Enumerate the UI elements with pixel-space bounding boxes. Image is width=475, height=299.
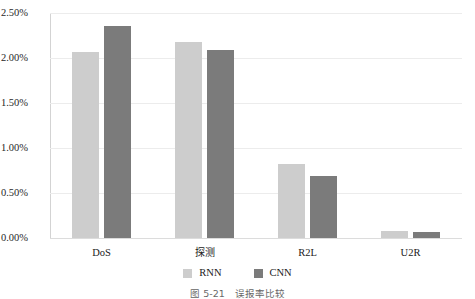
legend-swatch-cnn	[254, 269, 263, 278]
bar-rnn[interactable]	[175, 42, 202, 238]
y-axis-tick-label: 1.50%	[0, 98, 28, 109]
y-axis-tick-label: 2.50%	[0, 8, 28, 19]
y-axis-tick-label: 0.50%	[0, 188, 28, 199]
figure-caption-text: 误报率比较	[235, 288, 285, 299]
bar-rnn[interactable]	[72, 52, 99, 238]
bar-rnn[interactable]	[278, 164, 305, 238]
legend-entry-cnn[interactable]: CNN	[254, 268, 292, 279]
bar-cnn[interactable]	[104, 26, 131, 238]
figure-caption-number: 图 5-21	[190, 288, 225, 299]
y-axis-tick-label: 2.00%	[0, 53, 28, 64]
bar-group	[50, 13, 153, 238]
x-axis-label-u2r: U2R	[371, 247, 451, 258]
bar-group	[359, 13, 462, 238]
x-axis-label-probe: 探测	[165, 247, 245, 258]
x-axis-label-dos: DoS	[62, 247, 142, 258]
bar-cnn[interactable]	[310, 176, 337, 238]
bar-group	[256, 13, 359, 238]
bar-rnn[interactable]	[381, 231, 408, 238]
legend-entry-rnn[interactable]: RNN	[183, 268, 221, 279]
y-axis-tick-label: 0.00%	[0, 233, 28, 244]
x-axis-label-r2l: R2L	[268, 247, 348, 258]
figure-caption: 图 5-21误报率比较	[0, 289, 475, 299]
bar-cnn[interactable]	[413, 232, 440, 238]
y-axis-tick-label: 1.00%	[0, 143, 28, 154]
plot-area: 2.50%2.00%1.50%1.00%0.50%0.00%	[50, 13, 462, 238]
bar-group	[153, 13, 256, 238]
legend-swatch-rnn	[183, 269, 192, 278]
legend-label-cnn: CNN	[270, 268, 292, 279]
bar-cnn[interactable]	[207, 50, 234, 238]
legend-label-rnn: RNN	[199, 268, 221, 279]
bar-chart-figure: 2.50%2.00%1.50%1.00%0.50%0.00% DoS探测R2LU…	[0, 0, 475, 299]
gridline	[50, 238, 462, 239]
chart-legend: RNN CNN	[0, 268, 475, 279]
